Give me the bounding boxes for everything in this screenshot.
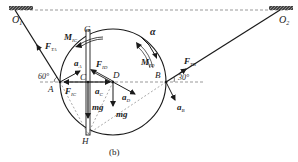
label-a-d: aD xyxy=(122,92,131,103)
label-m-id: MID xyxy=(140,57,155,68)
point-d xyxy=(112,81,115,84)
support-o2 xyxy=(269,6,293,10)
label-f-ta: FTA xyxy=(44,41,57,52)
m-ic-moment-arc xyxy=(78,37,103,45)
label-h: H xyxy=(81,136,89,146)
mechanics-diagram: O1 O2 FTA FTB MIC G α MID aA FID C D B 6… xyxy=(0,0,298,162)
label-d: D xyxy=(112,70,120,80)
alpha-arrowhead xyxy=(152,53,157,59)
figure-caption: (b) xyxy=(109,147,120,157)
label-o2: O2 xyxy=(279,14,289,26)
label-m-ic: MIC xyxy=(63,32,78,43)
a-b-arrow xyxy=(166,82,175,100)
label-a-b: aB xyxy=(177,102,185,113)
point-b xyxy=(165,81,168,84)
label-a-c: aC xyxy=(95,86,104,97)
m-ic-moment-arc-2 xyxy=(80,39,103,47)
label-c: C xyxy=(80,72,87,82)
point-a xyxy=(59,81,62,84)
support-o1 xyxy=(9,6,33,10)
f-id-arrow-inner xyxy=(93,71,113,82)
label-alpha: α xyxy=(150,26,156,37)
label-mg-rod: mg xyxy=(92,102,104,112)
point-c xyxy=(87,81,90,84)
label-o1: O1 xyxy=(12,14,22,26)
label-f-id: FID xyxy=(95,59,108,70)
label-a-a: aA xyxy=(74,58,83,69)
ft-a-arrow xyxy=(37,45,40,50)
a-a-arrow xyxy=(60,71,80,82)
label-b: B xyxy=(155,70,161,80)
label-a: A xyxy=(47,84,54,94)
label-g: G xyxy=(84,24,91,34)
label-angle-30: 30° xyxy=(177,73,190,82)
label-mg-disk: mg xyxy=(116,109,128,119)
label-f-tb: FTB xyxy=(183,56,196,67)
label-f-ic: FIC xyxy=(64,86,77,97)
label-angle-60: 60° xyxy=(38,72,50,81)
angle-60-arc xyxy=(54,77,57,82)
